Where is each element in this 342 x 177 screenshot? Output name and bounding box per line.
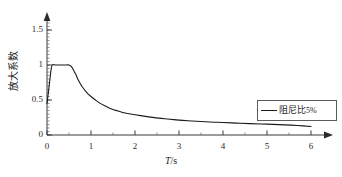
- x-axis-title: T/s: [0, 155, 342, 166]
- y-axis-tick-label: 0: [39, 130, 44, 139]
- x-axis-tick-label: 4: [213, 142, 233, 151]
- x-axis-tick-label: 0: [37, 142, 57, 151]
- y-axis-tick-label: 1: [39, 60, 44, 69]
- y-axis-title: 放大系数: [4, 36, 20, 106]
- x-axis-tick-label: 5: [257, 142, 277, 151]
- legend-item-label-text: 阻尼比: [279, 105, 306, 115]
- legend-item-label: 阻尼比5%: [279, 106, 317, 115]
- chart-figure: 00.511.5 0123456 放大系数 T/s 阻尼比5%: [0, 0, 342, 177]
- x-axis-title-unit: /s: [170, 155, 177, 166]
- legend-line-swatch: [261, 110, 277, 111]
- x-axis-tick-label: 6: [301, 142, 321, 151]
- legend: 阻尼比5%: [257, 100, 337, 121]
- y-axis-tick-label: 1.5: [32, 25, 43, 34]
- legend-item-label-percent: 5%: [306, 106, 317, 115]
- x-axis-tick-label: 3: [169, 142, 189, 151]
- y-axis-title-text: 放大系数: [5, 51, 20, 91]
- x-axis-tick-label: 1: [81, 142, 101, 151]
- x-axis-tick-label: 2: [125, 142, 145, 151]
- y-axis-tick-label: 0.5: [32, 95, 43, 104]
